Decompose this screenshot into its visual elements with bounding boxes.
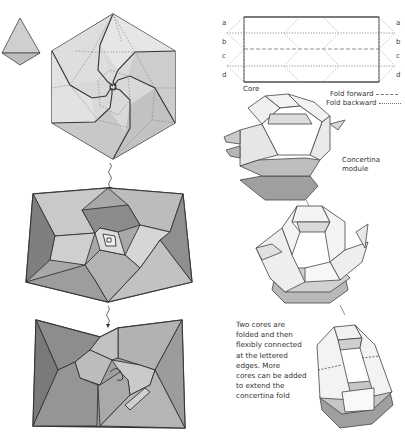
caption-line: cores can be added [236,371,326,381]
step-arrow-2 [107,306,110,324]
core-right-letter-d: d [396,71,400,79]
core-label: Core [243,85,259,94]
legend-fold-forward: Fold forward [330,90,401,99]
concertina-module-label: Concertina module [342,156,380,174]
dotted-line-swatch [379,103,401,104]
concertina-label-line-2: module [342,165,380,174]
caption-line: Two cores are [236,320,326,330]
caption-line: at the lettered [236,351,326,361]
diagram-canvas [0,0,405,434]
legend-fold-forward-label: Fold forward [330,90,374,99]
core-strip [227,17,395,82]
spiral-hexagon-crease-pattern [52,14,175,159]
step-arrow-1 [109,163,112,187]
dashed-line-swatch [376,94,398,95]
caption-line: folded and then [236,330,326,340]
caption-line: to extend the [236,381,326,391]
extended-concertina [317,325,393,428]
legend: Fold forward Fold backward [330,90,401,108]
core-left-letter-b: b [222,38,226,46]
caption: Two cores are folded and then flexibly c… [236,320,326,402]
core-right-letter-c: c [396,52,400,60]
core-left-letter-c: c [222,52,226,60]
connected-cores [256,206,368,303]
concertina-label-line-1: Concertina [342,156,380,165]
concertina-module [224,94,345,200]
core-left-letter-a: a [222,19,226,27]
core-right-letter-b: b [396,38,400,46]
twisted-hexagon-step-2 [33,320,185,428]
caption-line: edges. More [236,361,326,371]
legend-fold-backward-label: Fold backward [326,99,377,108]
twisted-hexagon-step-1 [26,188,192,302]
unit-triangle [2,18,40,65]
core-left-letter-d: d [222,71,226,79]
core-right-letter-a: a [396,19,400,27]
caption-line: concertina fold [236,391,326,401]
caption-line: flexibly connected [236,340,326,350]
legend-fold-backward: Fold backward [326,99,401,108]
